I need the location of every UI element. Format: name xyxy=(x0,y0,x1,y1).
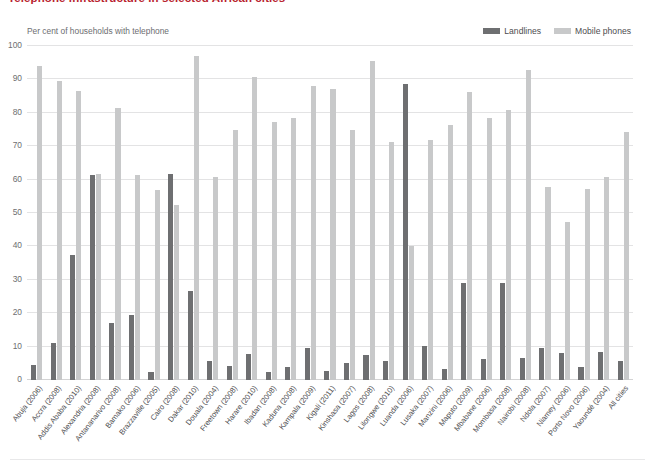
bar-mobile-phones[interactable] xyxy=(252,77,257,380)
bar-mobile-phones[interactable] xyxy=(545,187,550,380)
bar-landlines[interactable] xyxy=(31,365,36,380)
bar-group xyxy=(27,46,47,380)
bar-mobile-phones[interactable] xyxy=(350,130,355,380)
bar-landlines[interactable] xyxy=(207,361,212,380)
x-label-cell: Brazzaville (2005) xyxy=(144,382,164,462)
bar-mobile-phones[interactable] xyxy=(155,190,160,380)
bar-landlines[interactable] xyxy=(129,315,134,380)
bar-landlines[interactable] xyxy=(578,367,583,380)
y-tick-label-0: 0 xyxy=(17,374,22,384)
bar-mobile-phones[interactable] xyxy=(135,175,140,380)
bar-mobile-phones[interactable] xyxy=(57,81,62,380)
x-axis-labels: Abuja (2006)Accra (2008)Addis Ababa (201… xyxy=(27,382,633,462)
bar-group xyxy=(613,46,633,380)
bar-landlines[interactable] xyxy=(70,255,75,380)
bar-group xyxy=(359,46,379,380)
bar-group xyxy=(183,46,203,380)
y-tick-label-80: 80 xyxy=(13,107,22,117)
bar-mobile-phones[interactable] xyxy=(604,177,609,380)
bar-group xyxy=(203,46,223,380)
bar-group xyxy=(222,46,242,380)
bar-landlines[interactable] xyxy=(618,361,623,380)
legend-item-mobile-phones[interactable]: Mobile phones xyxy=(554,26,631,36)
bar-landlines[interactable] xyxy=(422,346,427,380)
bars-layer xyxy=(27,46,633,380)
bar-landlines[interactable] xyxy=(285,367,290,380)
bar-landlines[interactable] xyxy=(90,175,95,380)
bar-landlines[interactable] xyxy=(520,358,525,380)
bar-landlines[interactable] xyxy=(344,363,349,380)
y-tick-label-20: 20 xyxy=(13,307,22,317)
bar-mobile-phones[interactable] xyxy=(526,70,531,380)
bar-mobile-phones[interactable] xyxy=(213,177,218,380)
bottom-divider xyxy=(10,459,645,460)
bar-group xyxy=(496,46,516,380)
bar-landlines[interactable] xyxy=(109,323,114,380)
x-label-cell: Yaoundé (2004) xyxy=(594,382,614,462)
bar-landlines[interactable] xyxy=(383,361,388,380)
chart-title-strip: Telephone infrastructure in selected Afr… xyxy=(0,0,655,9)
bar-mobile-phones[interactable] xyxy=(370,61,375,380)
bar-mobile-phones[interactable] xyxy=(311,86,316,380)
bar-mobile-phones[interactable] xyxy=(291,118,296,380)
page-title: Telephone infrastructure in selected Afr… xyxy=(8,0,285,4)
legend-item-landlines[interactable]: Landlines xyxy=(483,26,541,36)
bar-landlines[interactable] xyxy=(227,366,232,380)
bar-landlines[interactable] xyxy=(500,283,505,380)
bar-mobile-phones[interactable] xyxy=(272,122,277,380)
chart-header: Per cent of households with telephone La… xyxy=(0,26,655,42)
bar-landlines[interactable] xyxy=(168,174,173,380)
bar-landlines[interactable] xyxy=(188,291,193,380)
bar-mobile-phones[interactable] xyxy=(624,132,629,380)
bar-group xyxy=(301,46,321,380)
bar-landlines[interactable] xyxy=(481,359,486,380)
bar-mobile-phones[interactable] xyxy=(194,56,199,380)
bar-landlines[interactable] xyxy=(51,343,56,380)
bar-landlines[interactable] xyxy=(246,354,251,380)
bar-mobile-phones[interactable] xyxy=(389,142,394,380)
bar-group xyxy=(340,46,360,380)
bar-mobile-phones[interactable] xyxy=(448,125,453,380)
bar-mobile-phones[interactable] xyxy=(96,174,101,380)
bar-mobile-phones[interactable] xyxy=(585,189,590,380)
bar-group xyxy=(594,46,614,380)
bar-mobile-phones[interactable] xyxy=(233,130,238,381)
bar-mobile-phones[interactable] xyxy=(76,91,81,380)
bar-group xyxy=(125,46,145,380)
bar-mobile-phones[interactable] xyxy=(428,140,433,380)
bar-group xyxy=(516,46,536,380)
bar-landlines[interactable] xyxy=(148,372,153,380)
bar-group xyxy=(47,46,67,380)
bar-mobile-phones[interactable] xyxy=(174,205,179,380)
bar-mobile-phones[interactable] xyxy=(487,118,492,380)
bar-mobile-phones[interactable] xyxy=(506,110,511,380)
bar-landlines[interactable] xyxy=(442,369,447,380)
chart-legend: Landlines Mobile phones xyxy=(483,26,631,36)
bar-group xyxy=(398,46,418,380)
bar-group xyxy=(457,46,477,380)
y-tick-label-50: 50 xyxy=(13,207,22,217)
bar-landlines[interactable] xyxy=(363,355,368,380)
bar-mobile-phones[interactable] xyxy=(565,222,570,380)
bar-landlines[interactable] xyxy=(598,352,603,380)
bar-group xyxy=(144,46,164,380)
plot-area: 0102030405060708090100 xyxy=(27,46,633,380)
y-tick-label-30: 30 xyxy=(13,274,22,284)
bar-landlines[interactable] xyxy=(305,348,310,380)
bar-landlines[interactable] xyxy=(266,372,271,380)
bar-group xyxy=(242,46,262,380)
bar-mobile-phones[interactable] xyxy=(37,66,42,380)
legend-label-landlines: Landlines xyxy=(504,26,541,36)
bar-landlines[interactable] xyxy=(461,283,466,380)
bar-mobile-phones[interactable] xyxy=(330,89,335,380)
bar-mobile-phones[interactable] xyxy=(467,92,472,380)
bar-landlines[interactable] xyxy=(403,84,408,380)
bar-landlines[interactable] xyxy=(559,353,564,380)
bar-mobile-phones[interactable] xyxy=(409,246,414,380)
bar-landlines[interactable] xyxy=(539,348,544,380)
legend-swatch-landlines xyxy=(483,28,500,34)
bar-group xyxy=(555,46,575,380)
bar-landlines[interactable] xyxy=(324,371,329,380)
bar-mobile-phones[interactable] xyxy=(115,108,120,380)
bar-group xyxy=(437,46,457,380)
